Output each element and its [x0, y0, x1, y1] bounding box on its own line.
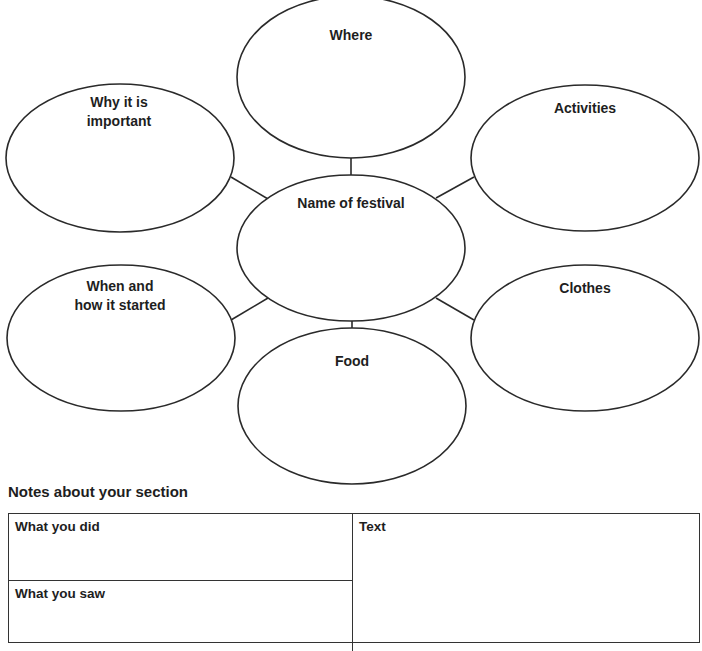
bubble-where[interactable]	[237, 0, 465, 158]
label-where: Where	[251, 26, 451, 45]
label-activities: Activities	[485, 99, 685, 118]
connector-clothes	[436, 298, 474, 320]
label-why-line2: important	[19, 112, 219, 131]
notes-table: What you did What you saw Text	[8, 513, 700, 643]
label-when-how-started: When and how it started	[20, 277, 220, 315]
label-clothes: Clothes	[485, 279, 685, 298]
what-you-did-label: What you did	[15, 519, 100, 534]
label-why-line1: Why it is	[19, 93, 219, 112]
label-name-of-festival: Name of festival	[251, 194, 451, 213]
label-when-line2: how it started	[20, 296, 220, 315]
connector-when	[231, 298, 268, 320]
notes-cell-what-you-saw[interactable]: What you saw	[9, 581, 353, 651]
notes-section-title: Notes about your section	[8, 483, 188, 500]
label-when-line1: When and	[20, 277, 220, 296]
notes-cell-text[interactable]: Text	[353, 514, 699, 644]
text-label: Text	[359, 519, 386, 534]
label-food: Food	[252, 352, 452, 371]
label-why-important: Why it is important	[19, 93, 219, 131]
what-you-saw-label: What you saw	[15, 586, 105, 601]
notes-cell-what-you-did[interactable]: What you did	[9, 514, 353, 581]
